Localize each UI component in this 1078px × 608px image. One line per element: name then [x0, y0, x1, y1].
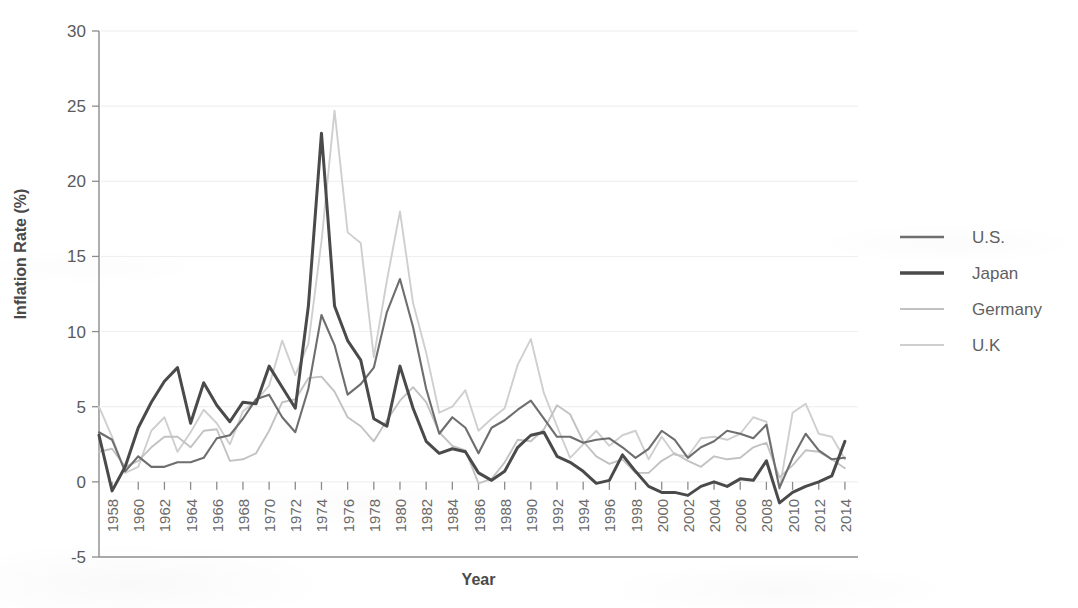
x-axis-tick-label: 1984 [444, 499, 461, 532]
x-axis-tick-label: 1988 [497, 499, 514, 532]
x-axis-tick-label: 2014 [837, 499, 854, 532]
x-axis-tick-label: 1998 [628, 499, 645, 532]
x-axis-tick-label: 2004 [706, 499, 723, 532]
legend-label-japan: Japan [972, 264, 1018, 283]
y-axis-tick-label: 20 [67, 172, 86, 191]
x-axis-tick-label: 1990 [523, 499, 540, 532]
x-axis-tick-label: 1974 [313, 499, 330, 532]
x-axis-tick-label: 1978 [366, 499, 383, 532]
x-axis-tick-label: 1982 [418, 499, 435, 532]
y-axis-tick-label: 15 [67, 247, 86, 266]
x-axis-tick-label: 1994 [575, 499, 592, 532]
x-axis-tick-label: 1960 [130, 499, 147, 532]
y-axis-tick-label: 25 [67, 97, 86, 116]
y-axis-tick-label: 10 [67, 323, 86, 342]
legend-label-uk: U.K [972, 336, 1001, 355]
y-axis-title: Inflation Rate (%) [12, 189, 29, 320]
series-line-us [99, 279, 845, 488]
x-axis-tick-label: 2000 [654, 499, 671, 532]
legend-label-germany: Germany [972, 300, 1042, 319]
y-axis-tick-label: -5 [71, 548, 86, 567]
x-axis-tick-label: 1970 [261, 499, 278, 532]
x-axis-tick-label: 1962 [156, 499, 173, 532]
x-axis-tick-label: 2012 [811, 499, 828, 532]
chart-page: -505101520253019581960196219641966196819… [0, 0, 1078, 608]
x-axis-tick-label: 1964 [183, 499, 200, 532]
legend-label-us: U.S. [972, 228, 1005, 247]
x-axis-tick-label: 2010 [785, 499, 802, 532]
x-axis-tick-label: 1972 [287, 499, 304, 532]
x-axis-tick-label: 1996 [601, 499, 618, 532]
x-axis-tick-label: 2002 [680, 499, 697, 532]
x-axis-tick-label: 1986 [471, 499, 488, 532]
y-axis-tick-label: 0 [77, 473, 86, 492]
x-axis-tick-label: 1976 [340, 499, 357, 532]
y-axis-tick-label: 30 [67, 22, 86, 41]
inflation-rate-line-chart: -505101520253019581960196219641966196819… [0, 0, 1078, 608]
x-axis-tick-label: 1968 [235, 499, 252, 532]
y-axis-tick-label: 5 [77, 398, 86, 417]
x-axis-tick-label: 1966 [209, 499, 226, 532]
x-axis-tick-label: 2008 [758, 499, 775, 532]
x-axis-title: Year [462, 571, 496, 588]
x-axis-tick-label: 1980 [392, 499, 409, 532]
x-axis-tick-label: 1992 [549, 499, 566, 532]
x-axis-tick-label: 1958 [104, 499, 121, 532]
x-axis-tick-label: 2006 [732, 499, 749, 532]
